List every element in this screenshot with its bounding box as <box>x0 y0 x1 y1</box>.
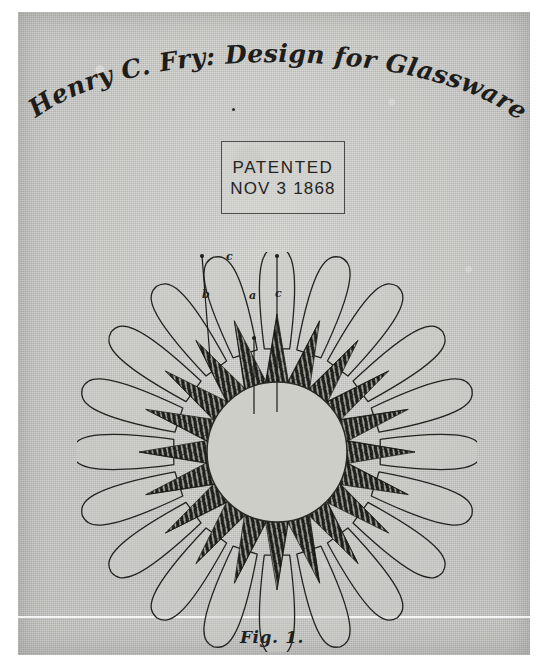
reference-label: b <box>202 289 210 300</box>
stamp-date-label: NOV 3 1868 <box>230 180 336 197</box>
reference-label: c <box>275 288 282 299</box>
leader-line <box>202 256 210 358</box>
leader-terminus-dot <box>200 254 204 258</box>
figure-caption: Fig. 1. <box>0 627 544 647</box>
leader-terminus-dot <box>275 254 279 258</box>
patent-stamp: PATENTED NOV 3 1868 <box>221 141 345 214</box>
leader-terminus-dot <box>252 336 256 340</box>
reference-leader-lines <box>150 240 350 440</box>
reference-label: c <box>226 251 233 262</box>
patent-drawing-page: Henry C. Fry: Design for Glassware PATEN… <box>0 0 544 671</box>
stamp-patented-label: PATENTED <box>233 159 334 176</box>
title-text: Henry C. Fry: Design for Glassware <box>22 39 533 126</box>
ink-speck <box>232 108 235 111</box>
reference-label: a <box>249 290 256 301</box>
title-script: Henry C. Fry: Design for Glassware <box>0 20 544 130</box>
